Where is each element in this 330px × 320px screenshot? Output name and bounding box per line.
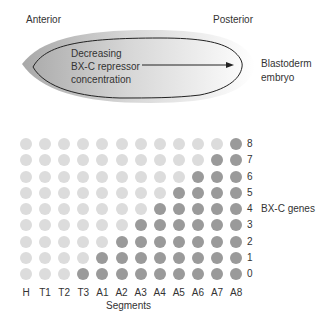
segment-label: A6 [188, 287, 208, 299]
gene-dot [20, 171, 32, 183]
bxc-genes-axis-label: BX-C genes [261, 203, 315, 215]
gene-dot [230, 268, 242, 280]
gene-dot [20, 236, 32, 248]
gene-dot [211, 252, 223, 264]
gene-dot [39, 203, 51, 215]
gene-dot [230, 236, 242, 248]
gene-dot [20, 203, 32, 215]
gene-dot [20, 154, 32, 166]
gene-dot [173, 252, 185, 264]
gene-dot [39, 219, 51, 231]
gene-dot [211, 171, 223, 183]
gene-dot [96, 252, 108, 264]
gene-dot [116, 236, 128, 248]
segment-label: H [16, 287, 36, 299]
gene-dot [135, 138, 147, 150]
gene-dot [135, 187, 147, 199]
gene-dot [230, 219, 242, 231]
gene-dot [135, 252, 147, 264]
gene-number-label: 3 [247, 219, 253, 231]
gene-dot [39, 268, 51, 280]
gene-dot [211, 268, 223, 280]
gene-dot [20, 138, 32, 150]
gene-dot [58, 138, 70, 150]
segment-label: A1 [92, 287, 112, 299]
gene-dot [135, 154, 147, 166]
gene-dot [173, 187, 185, 199]
gene-dot [211, 154, 223, 166]
gene-dot [154, 138, 166, 150]
gene-dot [135, 203, 147, 215]
gene-dot [154, 252, 166, 264]
embryo-label: embryo [261, 72, 294, 84]
gene-dot [96, 154, 108, 166]
gene-dot [230, 203, 242, 215]
gene-dot [77, 219, 89, 231]
gene-dot [154, 203, 166, 215]
gene-dot [135, 219, 147, 231]
gene-dot [135, 236, 147, 248]
gene-dot [58, 252, 70, 264]
segment-label: A8 [226, 287, 246, 299]
gene-dot [154, 171, 166, 183]
gene-dot [39, 252, 51, 264]
gene-number-label: 6 [247, 171, 253, 183]
gene-dot [192, 154, 204, 166]
gene-dot [58, 171, 70, 183]
gene-dot [77, 171, 89, 183]
gene-number-label: 1 [247, 252, 253, 264]
gene-dot [192, 187, 204, 199]
gene-dot [58, 236, 70, 248]
gene-dot [116, 138, 128, 150]
gene-dot [77, 203, 89, 215]
gene-dot [96, 187, 108, 199]
segments-axis-label: Segments [106, 300, 151, 312]
gene-dot [39, 154, 51, 166]
gene-dot [211, 187, 223, 199]
gene-dot [173, 219, 185, 231]
gene-dot [58, 219, 70, 231]
segment-label: T2 [54, 287, 74, 299]
gene-dot [192, 252, 204, 264]
segment-label: A2 [112, 287, 132, 299]
gene-dot [154, 236, 166, 248]
gene-dot [135, 268, 147, 280]
gene-dot [192, 171, 204, 183]
gene-dot [211, 203, 223, 215]
gene-dot [116, 203, 128, 215]
segment-label: A4 [150, 287, 170, 299]
gene-dot [39, 236, 51, 248]
gene-dot [58, 203, 70, 215]
gene-dot [154, 268, 166, 280]
gene-dot [173, 138, 185, 150]
gene-dot [135, 171, 147, 183]
gene-dot [116, 187, 128, 199]
gene-dot [58, 268, 70, 280]
blastoderm-label: Blastoderm [261, 58, 312, 70]
gene-dot [116, 252, 128, 264]
gene-dot [192, 138, 204, 150]
gene-dot [116, 154, 128, 166]
gene-dot [96, 236, 108, 248]
gene-dot [58, 187, 70, 199]
gene-dot [116, 268, 128, 280]
gene-dot [77, 252, 89, 264]
gene-dot [20, 252, 32, 264]
segment-label: T3 [73, 287, 93, 299]
gene-dot [230, 187, 242, 199]
gene-dot [173, 203, 185, 215]
gene-dot [230, 154, 242, 166]
gene-dot [96, 138, 108, 150]
gene-number-label: 5 [247, 187, 253, 199]
gene-dot [96, 219, 108, 231]
gradient-text-line-3: concentration [71, 74, 131, 86]
gradient-text-line-1: Decreasing [71, 48, 122, 60]
gene-dot [39, 138, 51, 150]
gene-dot [39, 171, 51, 183]
segment-label: A3 [131, 287, 151, 299]
gene-dot [230, 252, 242, 264]
gene-dot [192, 219, 204, 231]
gene-dot [39, 187, 51, 199]
gene-dot [154, 154, 166, 166]
gene-dot [211, 219, 223, 231]
